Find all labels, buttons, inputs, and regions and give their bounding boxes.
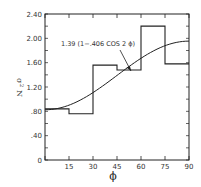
plot-frame <box>45 14 189 160</box>
y-tick-label: 1.60 <box>26 59 42 67</box>
x-tick-label: 90 <box>185 163 194 171</box>
chart: 153045607590 0.40.801.201.602.002.40 1.3… <box>0 0 201 187</box>
y-tick-label: .80 <box>31 108 42 116</box>
annotation-text: 1.39 (1−.406 COS 2 ϕ) <box>61 40 135 48</box>
y-tick-label: 2.40 <box>26 11 42 19</box>
y-tick-label: 2.00 <box>26 35 42 43</box>
x-tick-label: 15 <box>65 163 74 171</box>
x-tick-label: 60 <box>137 163 146 171</box>
y-axis-title: σ 2 N <box>15 78 25 97</box>
annotation: 1.39 (1−.406 COS 2 ϕ) <box>61 40 135 71</box>
y-axis-title-n: N <box>15 90 24 97</box>
x-tick-label: 75 <box>161 163 170 171</box>
x-axis-title: ϕ <box>109 170 117 183</box>
x-axis-ticks: 153045607590 <box>45 14 193 171</box>
y-tick-label: 1.20 <box>26 84 42 92</box>
y-tick-label: .40 <box>31 132 42 140</box>
plot-border <box>45 14 189 160</box>
y-tick-label: 0 <box>38 157 42 165</box>
fit-curve-series <box>45 41 189 110</box>
y-axis-title-sup: 2 <box>19 84 25 87</box>
x-tick-label: 30 <box>89 163 98 171</box>
